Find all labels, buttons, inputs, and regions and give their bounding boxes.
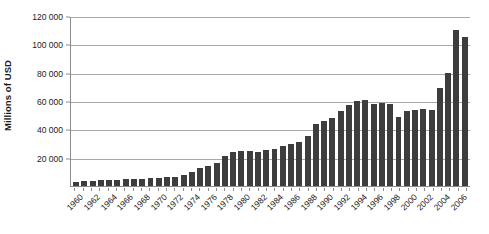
x-axis-tick-mark: [74, 188, 75, 191]
x-axis-tick-mark: [158, 188, 159, 191]
bar-slot: [204, 17, 212, 186]
x-axis-tick-label: 1986: [281, 192, 301, 212]
bar: [420, 109, 426, 186]
x-axis-tick-mark: [408, 188, 409, 191]
x-axis-tick-mark: [208, 188, 209, 191]
bar: [98, 180, 104, 186]
bar-slot: [436, 17, 444, 186]
bar-chart: Millions of USD 120 000100 00080 00060 0…: [0, 0, 489, 234]
bar-slot: [328, 17, 336, 186]
bar: [73, 182, 79, 186]
bar-slot: [403, 17, 411, 186]
bar: [437, 88, 443, 186]
bar-slot: [97, 17, 105, 186]
bar: [296, 142, 302, 186]
x-axis-tick-mark: [433, 188, 434, 191]
x-axis-tick-mark: [466, 188, 467, 191]
x-axis-tick-label: 1988: [298, 192, 318, 212]
x-axis-tick-label: 2006: [448, 192, 468, 212]
bar-slot: [287, 17, 295, 186]
bar: [205, 166, 211, 186]
x-axis-tick-label: 1984: [265, 192, 285, 212]
x-axis-tick-mark: [124, 188, 125, 191]
x-axis-tick-label: 2000: [398, 192, 418, 212]
x-axis-tick-label: 1982: [248, 192, 268, 212]
bar-slot: [196, 17, 204, 186]
x-axis-tick-label: 2002: [415, 192, 435, 212]
bar-slot: [312, 17, 320, 186]
bar-slot: [353, 17, 361, 186]
bar: [90, 181, 96, 186]
x-axis-tick-mark: [166, 188, 167, 191]
bar-slot: [221, 17, 229, 186]
x-axis-tick-mark: [399, 188, 400, 191]
y-axis-title-label: Millions of USD: [3, 59, 14, 130]
bar: [123, 179, 129, 186]
x-axis-tick-mark: [358, 188, 359, 191]
x-axis-tick-mark: [308, 188, 309, 191]
bar-slot: [213, 17, 221, 186]
x-axis-tick-mark: [233, 188, 234, 191]
x-axis-tick-label: 1966: [115, 192, 135, 212]
y-axis-tick-label: 40 000: [37, 125, 63, 135]
x-axis-tick-mark: [224, 188, 225, 191]
bar-slot: [72, 17, 80, 186]
y-axis-title: Millions of USD: [0, 0, 16, 190]
bar-slot: [345, 17, 353, 186]
bar-slot: [171, 17, 179, 186]
bar-slot: [130, 17, 138, 186]
bar: [338, 111, 344, 186]
bar: [222, 156, 228, 186]
bar-slot: [370, 17, 378, 186]
x-axis-tick-label: 1994: [348, 192, 368, 212]
x-axis-tick-mark: [341, 188, 342, 191]
x-axis-tick-label: 1968: [131, 192, 151, 212]
x-axis-tick-label: 1972: [165, 192, 185, 212]
bar: [396, 117, 402, 186]
bar: [255, 152, 261, 186]
x-axis-tick-mark: [333, 188, 334, 191]
x-axis-tick-mark: [183, 188, 184, 191]
x-axis-tick-mark: [116, 188, 117, 191]
x-axis-tick-mark: [349, 188, 350, 191]
x-axis-tick-mark: [283, 188, 284, 191]
bar: [106, 180, 112, 186]
x-axis-tick-mark: [316, 188, 317, 191]
bar-slot: [386, 17, 394, 186]
bar: [362, 100, 368, 186]
bar-slot: [262, 17, 270, 186]
x-axis-tick-label: 1990: [315, 192, 335, 212]
bar: [329, 118, 335, 186]
bar-slot: [122, 17, 130, 186]
x-axis-tick-mark: [374, 188, 375, 191]
plot-area: [70, 17, 470, 187]
x-axis-tick-label: 1970: [148, 192, 168, 212]
bar: [354, 101, 360, 186]
bar-slot: [337, 17, 345, 186]
bar: [181, 175, 187, 186]
bar: [404, 111, 410, 186]
bar: [379, 103, 385, 186]
bar-slot: [270, 17, 278, 186]
bar: [346, 105, 352, 186]
x-axis-tick-mark: [441, 188, 442, 191]
x-axis-tick-mark: [216, 188, 217, 191]
bar-slot: [295, 17, 303, 186]
bar-slot: [378, 17, 386, 186]
bar-slot: [105, 17, 113, 186]
y-axis-tick-group: 120 000100 00080 00060 00040 00020 000: [16, 17, 66, 187]
bar-slot: [163, 17, 171, 186]
bar: [189, 172, 195, 186]
y-axis-tick-label: 100 000: [32, 40, 63, 50]
bar-slot: [89, 17, 97, 186]
bar-slot: [279, 17, 287, 186]
bar-slot: [419, 17, 427, 186]
x-axis-tick-label: 1976: [198, 192, 218, 212]
bar-slot: [303, 17, 311, 186]
x-axis-tick-mark: [366, 188, 367, 191]
bar: [148, 178, 154, 186]
x-axis-tick-label: 2004: [431, 192, 451, 212]
bar: [412, 110, 418, 187]
bar: [230, 152, 236, 186]
bar-slot: [138, 17, 146, 186]
